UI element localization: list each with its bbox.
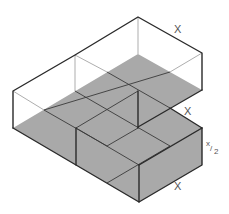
svg-text:/: / bbox=[210, 144, 213, 153]
label-notch-x: X bbox=[184, 105, 192, 117]
l-shaped-box-diagram: X X x / 2 X bbox=[0, 0, 229, 214]
label-height-x-over-2: x / 2 bbox=[206, 139, 219, 156]
label-top-x: X bbox=[174, 23, 182, 35]
svg-text:2: 2 bbox=[214, 147, 219, 156]
label-bottom-x: X bbox=[174, 180, 182, 192]
